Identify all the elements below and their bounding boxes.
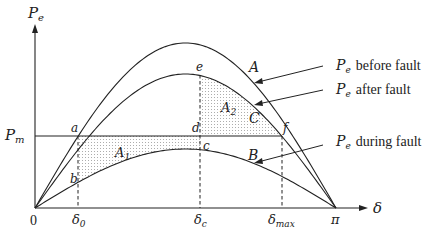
curve-label-b: B [247, 147, 258, 163]
arrow-head-icon [254, 100, 263, 106]
tick-deltac: δc [194, 212, 207, 229]
point-f: f [282, 121, 290, 135]
tick-deltamax: δmax [268, 212, 295, 229]
legend-before-fault: Pebefore fault [335, 57, 421, 75]
curve-label-c: C [249, 110, 260, 126]
legend-after-fault: Peafter fault [335, 81, 411, 99]
curve-before-fault [35, 43, 336, 208]
y-axis-arrow-icon [32, 24, 38, 33]
point-e: e [196, 60, 203, 74]
point-a: a [71, 121, 78, 135]
tick-delta0: δ0 [72, 212, 86, 229]
legend-arrows [254, 66, 323, 164]
x-axis-arrow-icon [359, 205, 368, 211]
arrow-head-icon [254, 78, 263, 84]
origin-label: 0 [30, 213, 37, 228]
x-axis-label: δ [373, 199, 382, 217]
area-a2-shading [200, 76, 282, 136]
pm-label: Pm [4, 126, 25, 145]
area-a1-shading [78, 136, 200, 182]
y-axis-label: Pe [27, 4, 44, 23]
equal-area-diagram: Pe Pm 0 δ δ0 δc δmax π A C B a b c d e f… [0, 0, 433, 237]
point-c: c [203, 139, 210, 153]
legend-during-fault: Peduring fault [335, 133, 422, 151]
point-b: b [70, 172, 78, 186]
curve-label-a: A [247, 59, 259, 75]
point-d: d [192, 121, 200, 135]
tick-pi: π [330, 212, 340, 227]
